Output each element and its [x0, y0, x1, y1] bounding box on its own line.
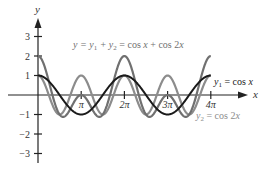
chart: 321−1−2−3 π2π3π4π y x y = y1 + y2 = cos …	[0, 0, 265, 172]
y-tick-label: −1	[19, 109, 30, 120]
y-tick-label: −3	[19, 148, 30, 159]
y-tick-label: 2	[25, 51, 30, 62]
x-tick-label: π	[79, 99, 85, 110]
x-axis-label: x	[252, 88, 258, 100]
y-tick-label: −2	[19, 129, 30, 140]
y1-curve-label: y1 = cos x	[213, 76, 253, 89]
y-axis-arrow-icon	[35, 18, 42, 28]
y-tick-label: 1	[25, 70, 30, 81]
x-tick-label: 4π	[206, 99, 217, 110]
x-tick-label: 3π	[162, 99, 174, 110]
y2-curve-label: y2 = cos 2x	[195, 110, 240, 123]
x-axis-arrow-icon	[238, 92, 248, 99]
y-axis-label: y	[34, 3, 40, 15]
y-tick-label: 3	[25, 31, 30, 42]
x-tick-label: 2π	[119, 99, 130, 110]
sum-curve-label: y = y1 + y2 = cos x + cos 2x	[72, 39, 184, 52]
